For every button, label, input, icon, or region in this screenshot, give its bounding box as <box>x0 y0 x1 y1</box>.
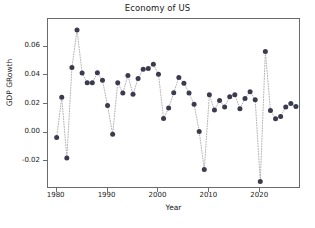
data-point <box>69 65 74 70</box>
data-point <box>243 96 248 101</box>
data-point <box>146 66 151 71</box>
data-point <box>293 104 298 109</box>
data-point <box>197 129 202 134</box>
data-point <box>181 81 186 86</box>
data-point <box>131 92 136 97</box>
x-axis-tick-label: 2000 <box>137 191 177 199</box>
data-point <box>253 97 258 102</box>
data-point <box>248 89 253 94</box>
data-point <box>202 167 207 172</box>
data-point <box>125 73 130 78</box>
series-markers <box>54 28 298 184</box>
data-point <box>258 179 263 184</box>
data-point <box>115 80 120 85</box>
chart-title: Economy of US <box>0 3 315 13</box>
data-point <box>141 67 146 72</box>
data-point <box>156 72 161 77</box>
data-point <box>75 28 80 33</box>
data-point <box>278 114 283 119</box>
data-point <box>212 108 217 113</box>
data-point <box>217 98 222 103</box>
chart-figure: Economy of US GDP GRowth -0.020.000.020.… <box>0 0 315 228</box>
data-point <box>207 92 212 97</box>
data-point <box>268 108 273 113</box>
data-point <box>151 62 156 67</box>
data-point <box>288 101 293 106</box>
x-axis-tick-label: 2020 <box>239 191 279 199</box>
series-connector-line <box>57 30 296 181</box>
x-axis-label: Year <box>47 203 300 212</box>
data-point <box>100 78 105 83</box>
y-axis-tick-label: 0.02 <box>6 99 40 107</box>
data-point <box>161 116 166 121</box>
y-axis-tick-label: 0.04 <box>6 70 40 78</box>
data-point <box>222 105 227 110</box>
x-axis-tick-label: 2010 <box>188 191 228 199</box>
data-point <box>110 132 115 137</box>
data-point <box>273 116 278 121</box>
data-point <box>105 103 110 108</box>
x-axis-tick-label: 1980 <box>36 191 76 199</box>
y-axis-tick-label: 0.00 <box>6 127 40 135</box>
plot-area <box>47 18 300 188</box>
data-point <box>263 49 268 54</box>
data-point <box>171 90 176 95</box>
data-point <box>166 106 171 111</box>
data-point <box>176 75 181 80</box>
data-point <box>283 105 288 110</box>
data-point <box>237 106 242 111</box>
data-point <box>136 76 141 81</box>
data-point <box>85 80 90 85</box>
y-axis-tick-label: -0.02 <box>6 156 40 164</box>
data-point <box>54 135 59 140</box>
x-axis-tick-label: 1990 <box>87 191 127 199</box>
data-point <box>232 92 237 97</box>
data-point <box>120 91 125 96</box>
data-point <box>59 95 64 100</box>
data-point <box>227 94 232 99</box>
data-point <box>187 91 192 96</box>
data-point <box>192 102 197 107</box>
data-point <box>90 80 95 85</box>
data-series-scatter <box>48 19 301 189</box>
data-point <box>64 156 69 161</box>
data-point <box>95 70 100 75</box>
data-point <box>80 71 85 76</box>
y-axis-tick-label: 0.06 <box>6 41 40 49</box>
